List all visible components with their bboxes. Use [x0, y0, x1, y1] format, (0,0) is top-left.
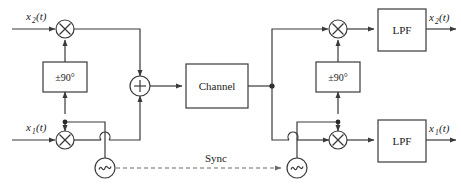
wire-tx-bottom-to-summer: [74, 96, 140, 140]
junction-dot-tx: [63, 120, 68, 125]
oscillator-rx: [287, 152, 307, 178]
mixer-rx-top: [329, 20, 347, 38]
output-top-arg: (t): [439, 11, 450, 24]
phase-shifter-tx: ±90°: [43, 62, 87, 92]
lpf-rx-bottom: LPF: [378, 120, 426, 162]
junction-dot-rx-osc: [336, 120, 341, 125]
output-bottom-arg: (t): [439, 122, 450, 135]
label-output-top: x 2 (t): [428, 11, 450, 26]
phase-shifter-rx: ±90°: [316, 62, 360, 92]
block-diagram-figure: ±90°: [0, 0, 461, 188]
input-top-arg: (t): [36, 10, 47, 23]
lpf-rx-top: LPF: [378, 9, 426, 51]
label-input-top: x 2 (t): [25, 10, 47, 25]
phase-shifter-tx-label: ±90°: [55, 72, 75, 83]
label-output-bottom: x 1 (t): [428, 122, 450, 137]
output-top-name: x: [428, 11, 434, 23]
wire-rx-down-to-mixer: [288, 132, 329, 140]
phase-shifter-rx-label: ±90°: [328, 72, 348, 83]
channel-label: Channel: [199, 80, 236, 92]
oscillator-tx: [95, 152, 115, 178]
label-input-bottom: x 1 (t): [25, 121, 47, 136]
lpf-top-label: LPF: [393, 24, 412, 36]
output-bottom-name: x: [428, 122, 434, 134]
input-bottom-name: x: [25, 121, 31, 133]
block-diagram-canvas: ±90°: [0, 0, 461, 188]
mixer-tx-top: [56, 20, 74, 38]
input-bottom-arg: (t): [36, 121, 47, 134]
input-top-name: x: [25, 10, 31, 22]
summer-tx: [130, 76, 150, 96]
mixer-rx-bottom: [329, 131, 347, 149]
mixer-tx-bottom: [56, 131, 74, 149]
channel-block: Channel: [186, 64, 248, 108]
sync-link: Sync: [116, 152, 281, 168]
lpf-bottom-label: LPF: [393, 135, 412, 147]
sync-label: Sync: [205, 152, 227, 164]
